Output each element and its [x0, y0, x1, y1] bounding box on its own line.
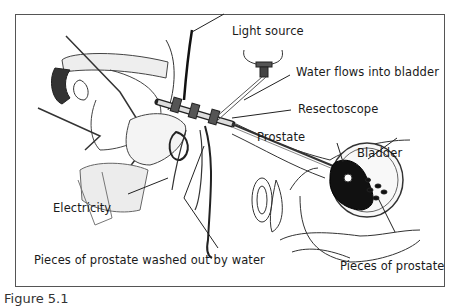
label-electricity: Electricity	[53, 203, 111, 215]
label-pieces-washed-out: Pieces of prostate washed out by water	[34, 255, 265, 267]
label-light-source: Light source	[232, 26, 304, 38]
anatomy	[232, 124, 420, 262]
light-cable	[184, 30, 192, 100]
label-bladder: Bladder	[357, 148, 402, 160]
label-prostate: Prostate	[257, 132, 305, 144]
label-water-flows: Water flows into bladder	[296, 67, 439, 79]
surgeon-figure	[38, 36, 188, 225]
label-pieces-of-prostate: Pieces of prostate	[340, 261, 444, 273]
figure-caption: Figure 5.1	[4, 292, 69, 305]
label-resectoscope: Resectoscope	[298, 104, 378, 116]
